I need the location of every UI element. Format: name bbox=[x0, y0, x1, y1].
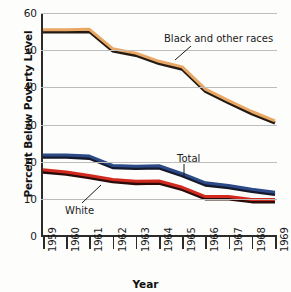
leader-black-and-other-races bbox=[175, 46, 191, 60]
x-tick-mark-1963 bbox=[136, 237, 138, 249]
x-tick-mark-1964 bbox=[159, 237, 161, 249]
x-tick-label-1964: 1964 bbox=[163, 227, 174, 252]
x-tick-label-1968: 1968 bbox=[256, 227, 267, 252]
x-tick-label-1961: 1961 bbox=[93, 227, 104, 252]
leader-white bbox=[82, 185, 101, 203]
x-tick-label-1966: 1966 bbox=[209, 227, 220, 252]
x-tick-label-1959: 1959 bbox=[47, 227, 58, 252]
x-tick-mark-1965 bbox=[182, 237, 184, 249]
x-tick-mark-1968 bbox=[252, 237, 254, 249]
x-tick-label-1962: 1962 bbox=[117, 227, 128, 252]
x-tick-mark-1966 bbox=[205, 237, 207, 249]
x-tick-mark-1969 bbox=[275, 237, 277, 249]
x-tick-mark-1960 bbox=[66, 237, 68, 249]
x-tick-label-1965: 1965 bbox=[186, 227, 197, 252]
x-tick-mark-1961 bbox=[89, 237, 91, 249]
poverty-line-chart: Percent Below Poverty Level 010203040506… bbox=[0, 0, 291, 292]
x-tick-label-1963: 1963 bbox=[140, 227, 151, 252]
x-tick-mark-1959 bbox=[43, 237, 45, 249]
x-tick-mark-1967 bbox=[229, 237, 231, 249]
x-tick-mark-1962 bbox=[113, 237, 115, 249]
x-tick-label-1960: 1960 bbox=[70, 227, 81, 252]
x-tick-label-1969: 1969 bbox=[279, 227, 290, 252]
x-tick-label-1967: 1967 bbox=[233, 227, 244, 252]
